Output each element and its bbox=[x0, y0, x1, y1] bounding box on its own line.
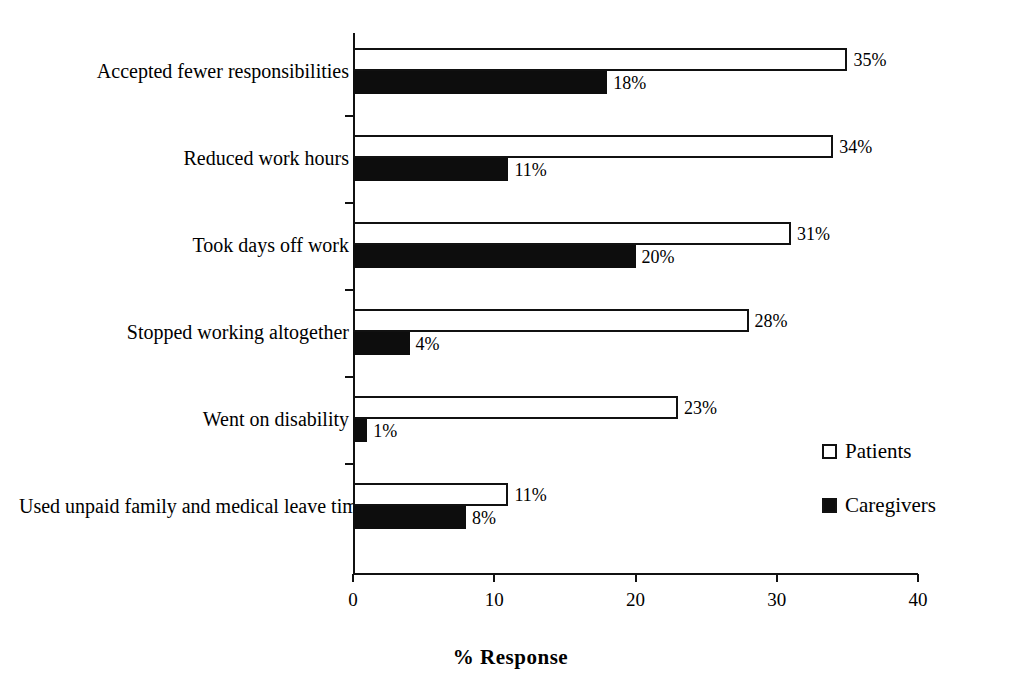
category-label: Accepted fewer responsibilities bbox=[19, 60, 353, 82]
bar-row: 34% bbox=[353, 135, 918, 158]
legend-swatch-icon bbox=[822, 444, 837, 459]
bar-value-label: 35% bbox=[847, 50, 886, 69]
bar-value-label: 20% bbox=[636, 247, 675, 266]
bar-patients[interactable] bbox=[353, 48, 847, 71]
bar-value-label: 28% bbox=[749, 311, 788, 330]
x-tick-label: 30 bbox=[767, 590, 786, 610]
legend-item-caregivers[interactable]: Caregivers bbox=[822, 494, 936, 517]
bar-group: Stopped working altogether28%4% bbox=[353, 309, 918, 355]
category-label: Stopped working altogether bbox=[19, 321, 353, 343]
bar-value-label: 8% bbox=[466, 508, 496, 527]
bar-group: Accepted fewer responsibilities35%18% bbox=[353, 48, 918, 94]
bar-patients[interactable] bbox=[353, 222, 791, 245]
legend-swatch-icon bbox=[822, 498, 837, 513]
x-tick bbox=[776, 574, 778, 582]
category-label: Used unpaid family and medical leave tim… bbox=[19, 495, 353, 517]
bar-row: 4% bbox=[353, 332, 918, 355]
x-tick bbox=[635, 574, 637, 582]
legend-label: Patients bbox=[845, 440, 912, 463]
x-tick-label: 0 bbox=[348, 590, 358, 610]
bar-patients[interactable] bbox=[353, 309, 749, 332]
chart-legend: PatientsCaregivers bbox=[822, 440, 936, 548]
chart-page: 010203040 Accepted fewer responsibilitie… bbox=[0, 0, 1021, 694]
bar-value-label: 18% bbox=[607, 73, 646, 92]
y-tick bbox=[345, 115, 354, 117]
y-tick bbox=[345, 289, 354, 291]
x-tick bbox=[493, 574, 495, 582]
category-label: Reduced work hours bbox=[19, 147, 353, 169]
legend-item-patients[interactable]: Patients bbox=[822, 440, 936, 463]
category-label: Took days off work bbox=[19, 234, 353, 256]
bar-patients[interactable] bbox=[353, 135, 833, 158]
bar-value-label: 31% bbox=[791, 224, 830, 243]
bar-value-label: 11% bbox=[508, 485, 546, 504]
bar-group: Reduced work hours34%11% bbox=[353, 135, 918, 181]
y-tick bbox=[345, 463, 354, 465]
x-tick-label: 40 bbox=[909, 590, 928, 610]
x-axis-title: % Response bbox=[0, 645, 1021, 670]
bar-caregivers[interactable] bbox=[353, 71, 607, 94]
x-tick-label: 20 bbox=[626, 590, 645, 610]
bar-row: 28% bbox=[353, 309, 918, 332]
bar-row: 31% bbox=[353, 222, 918, 245]
bar-row: 35% bbox=[353, 48, 918, 71]
bar-caregivers[interactable] bbox=[353, 506, 466, 529]
x-tick bbox=[352, 574, 354, 582]
bar-value-label: 1% bbox=[367, 421, 397, 440]
bar-caregivers[interactable] bbox=[353, 158, 508, 181]
bar-patients[interactable] bbox=[353, 396, 678, 419]
x-tick-label: 10 bbox=[485, 590, 504, 610]
bar-group: Took days off work31%20% bbox=[353, 222, 918, 268]
bar-row: 18% bbox=[353, 71, 918, 94]
bar-row: 20% bbox=[353, 245, 918, 268]
y-tick bbox=[345, 202, 354, 204]
bar-value-label: 23% bbox=[678, 398, 717, 417]
bar-patients[interactable] bbox=[353, 483, 508, 506]
bar-row: 23% bbox=[353, 396, 918, 419]
category-label: Went on disability bbox=[19, 408, 353, 430]
legend-label: Caregivers bbox=[845, 494, 936, 517]
bar-value-label: 34% bbox=[833, 137, 872, 156]
bar-group: Went on disability23%1% bbox=[353, 396, 918, 442]
bar-caregivers[interactable] bbox=[353, 245, 636, 268]
bar-row: 11% bbox=[353, 158, 918, 181]
y-tick bbox=[345, 376, 354, 378]
bar-caregivers[interactable] bbox=[353, 332, 410, 355]
bar-value-label: 11% bbox=[508, 160, 546, 179]
bar-row: 1% bbox=[353, 419, 918, 442]
bar-caregivers[interactable] bbox=[353, 419, 367, 442]
x-tick bbox=[917, 574, 919, 582]
bar-value-label: 4% bbox=[410, 334, 440, 353]
